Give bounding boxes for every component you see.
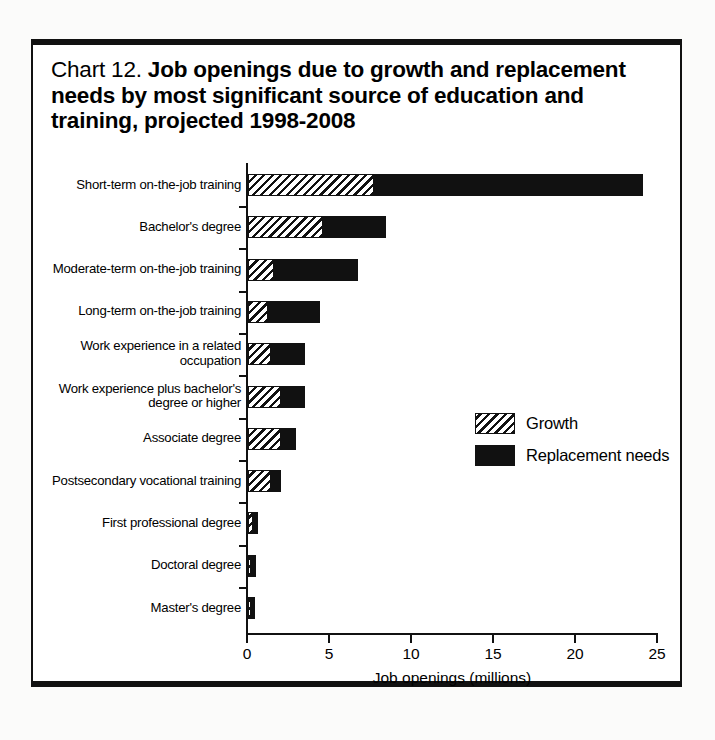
y-axis-tick <box>239 206 247 208</box>
y-axis-tick <box>239 418 247 420</box>
x-axis-tick-label: 5 <box>309 645 349 663</box>
bar-row <box>248 386 305 408</box>
legend-swatch-replacement-icon <box>475 445 515 466</box>
bar-row <box>248 216 386 238</box>
chart-figure-frame: Chart 12. Job openings due to growth and… <box>31 39 682 687</box>
category-axis-labels: Short-term on-the-job trainingBachelor's… <box>33 163 241 633</box>
bar-row <box>248 470 281 492</box>
bar-segment-replacement <box>268 301 320 323</box>
legend: Growth Replacement needs <box>475 413 705 477</box>
x-axis-tick <box>410 635 412 643</box>
bar-segment-growth <box>248 216 323 238</box>
y-axis-tick <box>239 460 247 462</box>
x-axis-tick-label: 20 <box>555 645 595 663</box>
y-axis-tick <box>239 502 247 504</box>
category-label: First professional degree <box>37 516 241 531</box>
bar-group <box>248 163 680 633</box>
bar-row <box>248 428 296 450</box>
category-label: Work experience in a related occupation <box>37 339 241 369</box>
bar-segment-growth <box>248 174 374 196</box>
category-label: Bachelor's degree <box>37 220 241 235</box>
category-label: Doctoral degree <box>37 558 241 573</box>
bar-segment-replacement <box>271 343 305 365</box>
chart-number: Chart 12. <box>51 57 142 82</box>
bar-segment-growth <box>248 428 281 450</box>
bar-segment-replacement <box>374 174 643 196</box>
legend-label-growth: Growth <box>526 414 578 433</box>
y-axis-tick <box>239 291 247 293</box>
bar-row <box>248 174 643 196</box>
category-label: Short-term on-the-job training <box>37 178 241 193</box>
x-axis-tick-label: 10 <box>391 645 431 663</box>
plot-area: Short-term on-the-job trainingBachelor's… <box>33 163 680 687</box>
category-label: Associate degree <box>37 431 241 446</box>
bar-segment-growth <box>248 259 274 281</box>
bar-segment-replacement <box>323 216 385 238</box>
bar-row <box>248 512 258 534</box>
bar-segment-replacement <box>271 470 281 492</box>
x-axis-tick <box>656 635 658 643</box>
x-axis-line <box>246 633 658 635</box>
bar-segment-growth <box>248 301 268 323</box>
bar-segment-growth <box>248 470 271 492</box>
x-axis-tick <box>492 635 494 643</box>
x-axis-tick <box>328 635 330 643</box>
bar-row <box>248 301 320 323</box>
bar-segment-replacement <box>251 597 254 619</box>
y-axis-tick <box>239 333 247 335</box>
legend-swatch-growth-icon <box>475 413 515 434</box>
bar-row <box>248 343 305 365</box>
category-label: Long-term on-the-job training <box>37 304 241 319</box>
category-label: Postsecondary vocational training <box>37 474 241 489</box>
bar-segment-replacement <box>251 555 256 577</box>
bar-row <box>248 555 256 577</box>
x-axis-title: Job openings (millions) <box>246 669 658 687</box>
bar-segment-growth <box>248 386 281 408</box>
y-axis-tick <box>239 375 247 377</box>
legend-item-replacement: Replacement needs <box>475 445 705 466</box>
bar-segment-replacement <box>281 386 306 408</box>
legend-item-growth: Growth <box>475 413 705 434</box>
bar-segment-growth <box>248 343 271 365</box>
bar-row <box>248 259 358 281</box>
bar-segment-replacement <box>281 428 296 450</box>
x-axis-tick-label: 0 <box>227 645 267 663</box>
category-label: Master's degree <box>37 601 241 616</box>
x-axis-tick-label: 25 <box>637 645 677 663</box>
category-label: Work experience plus bachelor's degree o… <box>37 382 241 412</box>
legend-label-replacement: Replacement needs <box>526 446 669 465</box>
x-axis-tick <box>574 635 576 643</box>
category-label: Moderate-term on-the-job training <box>37 262 241 277</box>
x-axis-tick-label: 15 <box>473 645 513 663</box>
bar-segment-replacement <box>274 259 358 281</box>
figure-title: Chart 12. Job openings due to growth and… <box>51 57 651 134</box>
y-axis-tick <box>239 545 247 547</box>
x-axis-tick <box>246 635 248 643</box>
y-axis-tick <box>239 248 247 250</box>
bar-segment-replacement <box>253 512 258 534</box>
y-axis-tick <box>239 587 247 589</box>
bar-row <box>248 597 255 619</box>
